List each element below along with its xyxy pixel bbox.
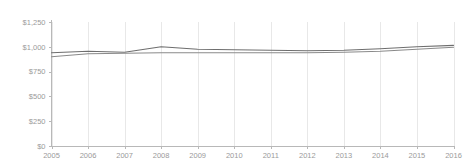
x-axis-tick-label-2015: 2015 (409, 151, 426, 160)
y-axis-tick-label-2: $500 (29, 92, 46, 101)
x-axis-tick-label-2009: 2009 (189, 151, 206, 160)
chart-canvas: $0$250$500$750$1,000$1,250 2005200620072… (0, 0, 467, 164)
x-axis-tick-label-2012: 2012 (299, 151, 316, 160)
data-series (52, 45, 454, 56)
series-line-1 (52, 45, 454, 52)
x-axis-tick-label-2010: 2010 (226, 151, 243, 160)
x-axis-tick-labels: 2005200620072008200920102011201220132014… (43, 146, 462, 160)
y-axis-tick-label-1: $250 (29, 117, 46, 126)
x-axis-tick-label-2014: 2014 (372, 151, 389, 160)
y-axis-tick-label-0: $0 (37, 142, 45, 151)
gridlines (53, 22, 455, 146)
x-axis-tick-label-2011: 2011 (263, 151, 279, 160)
y-axis-tick-labels: $0$250$500$750$1,000$1,250 (23, 18, 52, 151)
x-axis-tick-label-2005: 2005 (43, 151, 60, 160)
chart-axes (52, 20, 454, 147)
x-axis-tick-label-2013: 2013 (336, 151, 353, 160)
y-axis-tick-label-5: $1,250 (23, 18, 46, 27)
x-axis-tick-label-2006: 2006 (80, 151, 97, 160)
x-axis-tick-label-2016: 2016 (445, 151, 462, 160)
y-axis-tick-label-3: $750 (29, 67, 46, 76)
line-chart: $0$250$500$750$1,000$1,250 2005200620072… (0, 0, 467, 164)
x-axis-tick-label-2007: 2007 (116, 151, 133, 160)
x-axis-tick-label-2008: 2008 (153, 151, 170, 160)
y-axis-tick-label-4: $1,000 (23, 43, 46, 52)
